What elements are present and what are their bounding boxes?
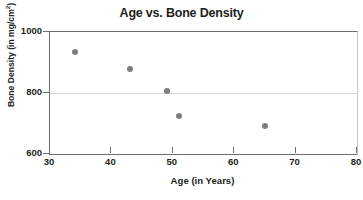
data-point — [127, 66, 133, 72]
x-tick-mark-50 — [172, 147, 173, 153]
y-axis-label-text: Bone Density (in mg/cm — [6, 9, 16, 107]
chart-title: Age vs. Bone Density — [0, 6, 363, 20]
data-point — [164, 88, 170, 94]
data-point — [72, 49, 78, 55]
plot-area — [49, 31, 358, 155]
scatter-chart: Age vs. Bone Density 6008001000 Bone Den… — [0, 0, 363, 200]
y-axis-label-tail: ) — [6, 3, 16, 6]
x-axis-label: Age (in Years) — [49, 175, 356, 186]
x-tick-mark-30 — [49, 147, 50, 153]
x-tick-label-50: 50 — [152, 156, 192, 167]
data-point — [262, 123, 268, 129]
plot-inner — [50, 32, 357, 154]
x-tick-label-80: 80 — [336, 156, 363, 167]
x-tick-mark-40 — [110, 147, 111, 153]
x-tick-label-70: 70 — [275, 156, 315, 167]
x-tick-label-60: 60 — [213, 156, 253, 167]
x-tick-label-30: 30 — [29, 156, 69, 167]
y-axis-label: Bone Density (in mg/cm2) — [6, 0, 16, 113]
x-tick-mark-70 — [295, 147, 296, 153]
gridline-y-800 — [50, 93, 357, 94]
x-tick-mark-60 — [233, 147, 234, 153]
x-tick-label-40: 40 — [90, 156, 130, 167]
data-point — [176, 113, 182, 119]
x-tick-mark-80 — [356, 147, 357, 153]
y-axis-label-superscript: 2 — [4, 6, 11, 9]
